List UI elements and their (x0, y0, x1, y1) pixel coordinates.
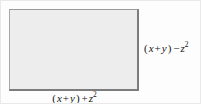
right-label-outer-operator: − (172, 42, 180, 54)
bottom-label-close-paren: ) (75, 92, 81, 104)
right-label-exponent: 2 (185, 40, 189, 49)
rectangle-width-label: (x+y)+z2 (9, 93, 139, 104)
geometry-figure: (x+y)−z2 (x+y)+z2 (0, 0, 201, 104)
bottom-label-inner-operator: + (62, 92, 70, 104)
right-label-inner-operator: + (154, 42, 162, 54)
area-rectangle (9, 9, 139, 91)
bottom-label-outer-operator: + (81, 92, 89, 104)
right-label-variable-y: y (162, 42, 167, 54)
rectangle-height-label: (x+y)−z2 (143, 43, 189, 54)
right-label-variable-x: x (149, 42, 154, 54)
bottom-label-exponent: 2 (93, 90, 97, 99)
